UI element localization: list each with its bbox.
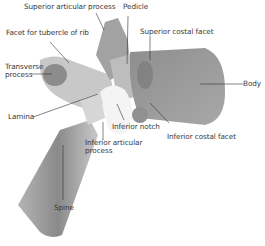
label-facet-tubercle-rib: Facet for tubercle of rib [6, 29, 89, 37]
label-inferior-notch: Inferior notch [112, 123, 160, 131]
label-spine: Spine [54, 204, 74, 212]
label-lamina: Lamina [8, 113, 34, 121]
label-superior-articular-process: Superior articular process [24, 3, 115, 11]
label-inferior-articular-process-line2: process [85, 147, 112, 155]
label-transverse-process-line2: process [5, 71, 32, 79]
label-body: Body [243, 80, 261, 88]
label-inferior-costal-facet: Inferior costal facet [167, 133, 236, 141]
label-superior-costal-facet: Superior costal facet [140, 28, 213, 36]
label-pedicle: Pedicle [123, 3, 148, 11]
